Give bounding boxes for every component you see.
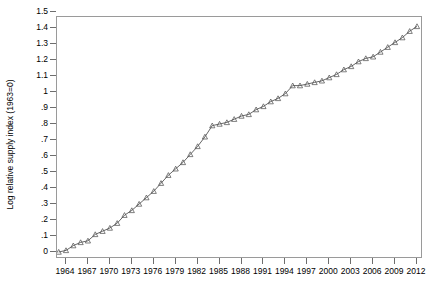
plot-area [56,16,422,258]
y-axis-tick-label: 0 [18,247,48,256]
x-axis-tick [394,258,395,264]
x-axis-tick [372,258,373,264]
x-axis-tick [306,258,307,264]
y-axis-tick-label: .3 [18,199,48,208]
series-log-relative-supply-index [57,17,423,259]
y-axis-tick-label: 1.3 [18,39,48,48]
x-axis-tick-label: 2012 [399,267,432,276]
x-axis-tick [328,258,329,264]
x-axis-tick [219,258,220,264]
y-axis-tick-label: .7 [18,135,48,144]
data-point-marker [414,24,419,29]
y-axis-tick-label: .6 [18,151,48,160]
y-axis-tick-label: .4 [18,183,48,192]
y-axis-tick-label: 1.1 [18,71,48,80]
x-axis-tick [241,258,242,264]
y-axis-tick-label: 1.4 [18,23,48,32]
y-axis-tick-label: .1 [18,231,48,240]
y-axis-tick-label: 1 [18,87,48,96]
x-axis-tick [87,258,88,264]
y-axis-tick-label: .5 [18,167,48,176]
x-axis-tick [350,258,351,264]
y-axis-tick-label: .8 [18,119,48,128]
chart-figure: Log relative supply index (1963=0) 0.1.2… [0,0,432,289]
y-axis-tick [50,11,56,12]
x-axis-tick [416,258,417,264]
y-axis-tick-label: 1.2 [18,55,48,64]
x-axis-tick [131,258,132,264]
y-axis-tick-label: .2 [18,215,48,224]
x-axis-tick [153,258,154,264]
x-axis-tick [284,258,285,264]
x-axis-tick [197,258,198,264]
y-axis-title: Log relative supply index (1963=0) [0,0,20,289]
y-axis-tick-label: .9 [18,103,48,112]
y-axis-tick-label: 1.5 [18,7,48,16]
x-axis-tick [65,258,66,264]
x-axis-tick [175,258,176,264]
x-axis-tick [262,258,263,264]
x-axis-tick [109,258,110,264]
